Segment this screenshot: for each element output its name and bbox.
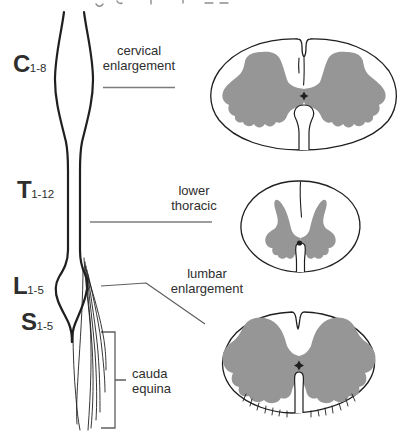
annotation-line: enlargement: [103, 58, 175, 73]
segment-range: 1-12: [31, 188, 54, 200]
thoracic-central-canal: [297, 240, 302, 245]
segment-letter: L: [13, 272, 27, 299]
segment-letter: S: [21, 308, 37, 335]
segment-label-lumbar: L1-5: [13, 272, 44, 300]
segment-letter: T: [17, 176, 31, 203]
annotation-line: lumbar: [187, 266, 227, 281]
thoracic-ventral-fissure: [296, 243, 306, 272]
annotation-line: cauda: [132, 366, 167, 381]
segment-label-cervical: C1-8: [13, 50, 46, 78]
lumbar-ventral-fissure: [295, 372, 304, 413]
annotation-cervical-enlargement: cervical enlargement: [99, 44, 179, 73]
cross-section-lumbar: [214, 300, 384, 422]
annotation-lumbar-enlargement: lumbar enlargement: [165, 267, 249, 296]
segment-letter: C: [13, 50, 30, 77]
cauda-equina-rootlets: [73, 258, 106, 430]
segment-range: 1-5: [27, 284, 44, 296]
cross-section-cervical: [198, 25, 410, 155]
segment-label-thoracic: T1-12: [17, 176, 54, 204]
segment-range: 1-5: [37, 320, 54, 332]
segment-range: 1-8: [30, 62, 47, 74]
annotation-lower-thoracic: lower thoracic: [154, 184, 234, 213]
annotation-line: lower: [178, 183, 209, 198]
annotation-line: enlargement: [171, 281, 243, 296]
annotation-cauda-equina: cauda equina: [132, 367, 192, 396]
spinal-cord-diagram: C1-8 T1-12 L1-5 S1-5 cervical enlargemen…: [0, 0, 414, 441]
cross-section-thoracic: [231, 172, 370, 277]
segment-label-sacral: S1-5: [21, 308, 53, 336]
annotation-line: thoracic: [171, 198, 217, 213]
annotation-line: cervical: [117, 43, 161, 58]
cord-left-outline: [55, 12, 72, 342]
annotation-line: equina: [132, 381, 171, 396]
